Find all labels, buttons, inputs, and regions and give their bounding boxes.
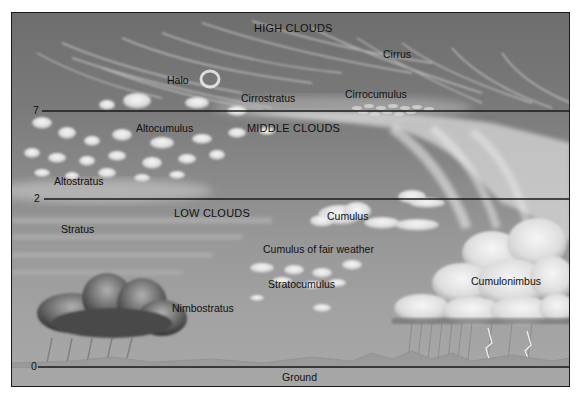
label-altocumulus: Altocumulus: [136, 123, 193, 134]
label-cumulonimbus: Cumulonimbus: [471, 276, 541, 287]
tick-2km: 2: [34, 193, 40, 204]
label-altostratus: Altostratus: [54, 176, 104, 187]
halo-ring: [201, 71, 219, 87]
label-cirrus: Cirrus: [383, 49, 411, 60]
label-cumulus: Cumulus: [327, 211, 368, 222]
nimbostratus-cloud: [37, 273, 187, 338]
label-cirrocumulus: Cirrocumulus: [345, 89, 407, 100]
cloud-diagram: HIGH CLOUDS Cirrus Halo Cirrostratus Cir…: [11, 12, 570, 387]
tick-0km: 0: [31, 361, 37, 372]
label-cirrostratus: Cirrostratus: [241, 93, 295, 104]
zone-high-clouds: HIGH CLOUDS: [254, 23, 333, 34]
label-halo: Halo: [167, 75, 189, 86]
label-cumulus-fair-weather: Cumulus of fair weather: [263, 244, 374, 255]
label-stratocumulus: Stratocumulus: [268, 279, 335, 290]
cumulonimbus-body: [394, 218, 570, 325]
zone-middle-clouds: MIDDLE CLOUDS: [247, 123, 340, 134]
stratus-streaks: [12, 218, 272, 274]
cloud-illustration: [12, 13, 570, 387]
altocumulus-puffs: [24, 93, 275, 182]
cirrus-streaks: [37, 21, 570, 109]
label-stratus: Stratus: [61, 224, 94, 235]
distant-mountains: [12, 351, 570, 368]
zone-low-clouds: LOW CLOUDS: [174, 208, 250, 219]
label-nimbostratus: Nimbostratus: [172, 303, 234, 314]
label-ground: Ground: [282, 372, 317, 383]
tick-7km: 7: [33, 105, 39, 116]
